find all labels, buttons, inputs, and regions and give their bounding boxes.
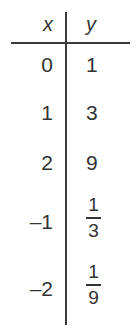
table-row: 1 9 xyxy=(86,262,128,308)
fraction-value: 1 9 xyxy=(86,262,101,308)
fraction-bar xyxy=(86,284,101,286)
table-row: 2 xyxy=(0,152,53,173)
table-row: 3 xyxy=(86,102,128,123)
table-row: –2 xyxy=(0,278,53,299)
column-header-y: y xyxy=(86,14,126,34)
table-row: 0 xyxy=(0,54,53,75)
fraction-numerator: 1 xyxy=(86,195,101,215)
fraction-denominator: 9 xyxy=(86,288,101,308)
fraction-value: 1 3 xyxy=(86,195,101,241)
table-row: 9 xyxy=(86,152,128,173)
fraction-numerator: 1 xyxy=(86,262,101,282)
table-row: 1 3 xyxy=(86,195,128,241)
table-row: –1 xyxy=(0,211,53,232)
function-value-table: x y 0 1 1 3 2 9 –1 1 3 –2 1 9 xyxy=(0,0,139,332)
column-header-x: x xyxy=(0,14,53,34)
table-row: 1 xyxy=(86,54,128,75)
table-row: 1 xyxy=(0,102,53,123)
header-divider-rule xyxy=(11,42,130,44)
fraction-bar xyxy=(86,217,101,219)
fraction-denominator: 3 xyxy=(86,221,101,241)
column-divider-rule xyxy=(65,12,67,325)
